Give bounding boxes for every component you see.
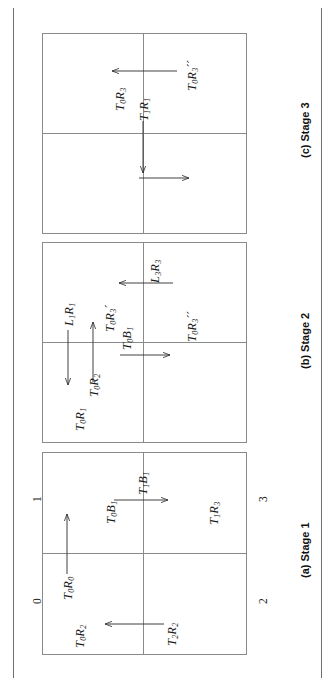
stage2-label-T0R1: T0R1	[74, 408, 88, 431]
panel-stage-2: T0R1 L1R1 T0R2 T0R3´ T0B1 L3R3 T0R3´´	[42, 242, 247, 443]
stage2-label-T0B1: T0B1	[121, 327, 135, 350]
stage1-label-T1R3: T1R3	[208, 502, 222, 525]
stage1-quadrant-label-3: 3	[258, 496, 270, 502]
stage2-label-T0R2: T0R2	[88, 374, 102, 397]
stage1-label-T0B1: T0B1	[105, 501, 119, 524]
panel-stage-1: 0 1 2 3 T0R2 T0R0 T0B1 T1B1 T1R3 T2R2	[42, 452, 247, 655]
page-edge-rule-left	[13, 8, 14, 678]
stage1-quadrant-label-2: 2	[258, 598, 270, 604]
stage1-quadrant-label-1: 1	[32, 496, 44, 502]
stage2-label-L1R1: L1R1	[63, 303, 77, 326]
stage1-label-T2R2: T2R2	[166, 623, 180, 646]
stage2-label-T0R3-dprime: T0R3´´	[186, 311, 200, 342]
stage3-label-T0R3-dprime: T0R3´´	[186, 60, 200, 91]
caption-stage-3: (c) Stage 3	[300, 102, 311, 158]
stage1-divider-horizontal	[42, 553, 247, 554]
caption-stage-2: (b) Stage 2	[300, 313, 311, 369]
stage1-label-T1B1: T1B1	[137, 472, 151, 495]
stage1-label-T0R0: T0R0	[62, 577, 76, 600]
page-edge-rule-right	[321, 8, 322, 678]
stage2-label-T0R3-prime: T0R3´	[104, 305, 118, 332]
stage3-label-T1R1: T1R1	[138, 98, 152, 121]
stage3-divider-horizontal	[42, 133, 247, 134]
panel-stage-3: T0R3 T1R1 T0R3´´	[42, 33, 247, 234]
stage2-label-L3R3: L3R3	[149, 260, 163, 283]
caption-stage-1: (a) Stage 1	[300, 522, 311, 578]
stage2-divider-horizontal	[42, 342, 247, 343]
stage1-quadrant-label-0: 0	[32, 598, 44, 604]
stage1-label-T0R2: T0R2	[74, 625, 88, 648]
stage3-label-T0R3: T0R3	[114, 88, 128, 111]
